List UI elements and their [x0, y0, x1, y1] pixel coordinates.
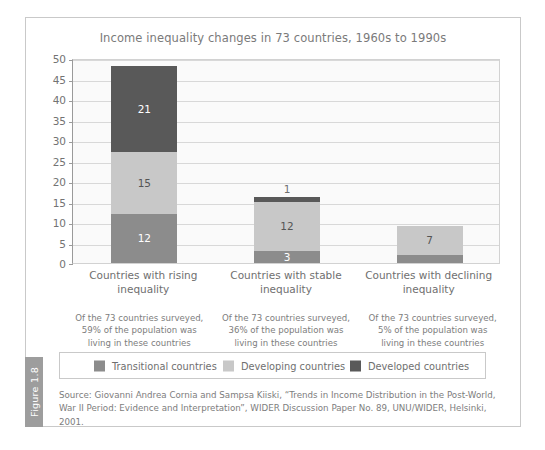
category-label-line: Countries with rising	[72, 268, 215, 282]
category-note-line: 59% of the population was	[66, 324, 213, 336]
y-axis-tick-label: 10	[53, 218, 66, 229]
bar-segment[interactable]: 7	[397, 226, 463, 255]
bar-column[interactable]: 121521	[111, 66, 177, 263]
y-axis-tick-label: 15	[53, 197, 66, 208]
legend-color-swatch	[350, 360, 361, 371]
y-axis-tick-label: 35	[53, 115, 66, 126]
category-label-line: inequality	[72, 282, 215, 296]
y-axis-tick-label: 30	[53, 136, 66, 147]
category-label: Countries with risinginequality	[72, 268, 215, 296]
figure-number-label: Figure 1.8	[29, 367, 40, 417]
legend-label: Developing countries	[241, 360, 345, 371]
plot-area: 121521312127	[72, 59, 500, 264]
legend-color-swatch	[94, 360, 105, 371]
bar-column[interactable]: 27	[397, 226, 463, 263]
category-note: Of the 73 countries surveyed,5% of the p…	[359, 312, 506, 349]
bar-segment-value: 3	[254, 252, 320, 263]
category-note-line: living in these countries	[213, 337, 360, 349]
y-axis: 05101520253035404550	[44, 59, 68, 264]
bar-segment-value: 12	[254, 221, 320, 232]
bar-column[interactable]: 3121	[254, 197, 320, 263]
bar-segment-value: 12	[111, 233, 177, 244]
source-line-2: War II Period: Evidence and Interpretati…	[59, 402, 509, 429]
category-note-line: living in these countries	[66, 337, 213, 349]
category-note-line: Of the 73 countries surveyed,	[66, 312, 213, 324]
chart-legend: Transitional countriesDeveloping countri…	[59, 352, 486, 379]
y-axis-tick-label: 45	[53, 74, 66, 85]
bar-segment-value: 7	[397, 235, 463, 246]
bar-segment[interactable]: 2	[397, 255, 463, 263]
bar-segment[interactable]: 12	[254, 202, 320, 251]
bar-segment[interactable]: 1	[254, 197, 320, 201]
legend-item[interactable]: Developed countries	[350, 360, 469, 371]
y-axis-tick-label: 20	[53, 177, 66, 188]
y-axis-tick-label: 50	[53, 54, 66, 65]
category-note-line: 5% of the population was	[359, 324, 506, 336]
bar-segment-value: 1	[254, 184, 320, 195]
category-label-line: Countries with stable	[215, 268, 358, 282]
category-label: Countries with declininginequality	[357, 268, 500, 296]
category-label-line: Countries with declining	[357, 268, 500, 282]
legend-item[interactable]: Developing countries	[223, 360, 345, 371]
bar-segment[interactable]: 21	[111, 66, 177, 152]
category-note-line: Of the 73 countries surveyed,	[359, 312, 506, 324]
category-notes: Of the 73 countries surveyed,59% of the …	[66, 312, 506, 356]
category-label-line: inequality	[357, 282, 500, 296]
bar-segment-value: 21	[111, 104, 177, 115]
y-axis-tick-label: 40	[53, 95, 66, 106]
category-note: Of the 73 countries surveyed,59% of the …	[66, 312, 213, 349]
source-note: Source: Giovanni Andrea Cornia and Samps…	[59, 389, 509, 429]
legend-label: Transitional countries	[112, 360, 217, 371]
category-note: Of the 73 countries surveyed,36% of the …	[213, 312, 360, 349]
chart-plot-wrapper: 05101520253035404550 121521312127	[44, 59, 500, 264]
y-axis-tick-label: 25	[53, 156, 66, 167]
y-axis-tick-mark	[69, 264, 73, 265]
chart-title: Income inequality changes in 73 countrie…	[26, 31, 520, 45]
legend-color-swatch	[223, 360, 234, 371]
category-label-line: inequality	[215, 282, 358, 296]
legend-label: Developed countries	[368, 360, 469, 371]
bar-segment[interactable]: 3	[254, 251, 320, 263]
bar-segment-value: 15	[111, 178, 177, 189]
gridline	[73, 60, 499, 61]
category-note-line: living in these countries	[359, 337, 506, 349]
bar-segment[interactable]: 15	[111, 152, 177, 214]
figure-number-tab: Figure 1.8	[25, 357, 43, 427]
legend-item[interactable]: Transitional countries	[94, 360, 217, 371]
category-label: Countries with stableinequality	[215, 268, 358, 296]
source-line-1: Source: Giovanni Andrea Cornia and Samps…	[59, 389, 509, 402]
category-note-line: 36% of the population was	[213, 324, 360, 336]
category-note-line: Of the 73 countries surveyed,	[213, 312, 360, 324]
y-axis-tick-label: 0	[59, 259, 66, 270]
category-labels: Countries with risinginequalityCountries…	[72, 268, 500, 302]
figure-frame: Income inequality changes in 73 countrie…	[25, 17, 521, 427]
y-axis-tick-label: 5	[59, 238, 66, 249]
bar-segment[interactable]: 12	[111, 214, 177, 263]
